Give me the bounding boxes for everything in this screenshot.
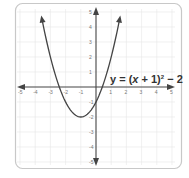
x-tick-label: 2 bbox=[124, 89, 127, 95]
y-tick-label: 2 bbox=[89, 54, 92, 60]
y-tick-label: -3 bbox=[89, 129, 94, 135]
y-tick-label: 3 bbox=[89, 39, 92, 45]
graph-card: -5-4-3-2-112345 54321-1-2-3-4-5 y = (x +… bbox=[0, 0, 189, 178]
y-tick-label: -2 bbox=[89, 114, 94, 120]
equation-label: y = (x + 1)2 − 2 bbox=[110, 73, 183, 85]
x-tick-label: 4 bbox=[155, 89, 158, 95]
y-tick-label: 5 bbox=[89, 9, 92, 15]
y-tick-label: -5 bbox=[89, 159, 94, 165]
x-tick-label: 3 bbox=[140, 89, 143, 95]
parabola-graph: -5-4-3-2-112345 54321-1-2-3-4-5 y = (x +… bbox=[0, 0, 189, 178]
y-tick-label: -4 bbox=[89, 144, 94, 150]
x-tick-label: -5 bbox=[18, 89, 23, 95]
x-tick-label: -4 bbox=[33, 89, 38, 95]
x-tick-label: -2 bbox=[64, 89, 69, 95]
x-tick-label: 1 bbox=[109, 89, 112, 95]
y-tick-label: 1 bbox=[89, 69, 92, 75]
y-tick-label: 4 bbox=[89, 24, 92, 30]
y-tick-label: -1 bbox=[89, 99, 94, 105]
x-tick-label: -1 bbox=[79, 89, 84, 95]
x-tick-label: -3 bbox=[48, 89, 53, 95]
x-tick-label: 5 bbox=[170, 89, 173, 95]
